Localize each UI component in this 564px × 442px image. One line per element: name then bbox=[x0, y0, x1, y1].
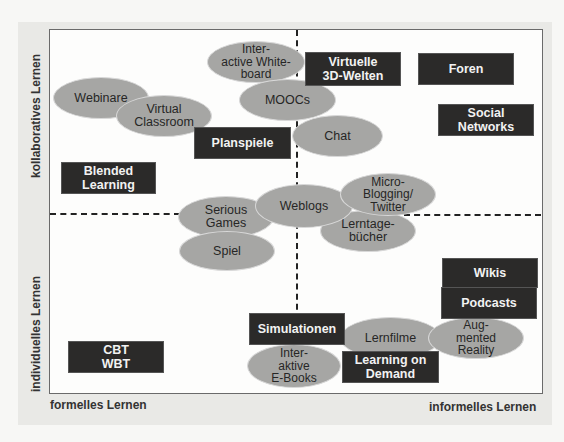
ellipse-chat: Chat bbox=[292, 115, 383, 157]
box-simulationen: Simulationen bbox=[249, 313, 345, 345]
box-blended-learning: Blended Learning bbox=[61, 162, 156, 194]
horizontal-divider-right bbox=[404, 214, 541, 216]
horizontal-divider-left bbox=[50, 213, 180, 215]
box-cbt-wbt: CBT WBT bbox=[68, 341, 164, 373]
box-foren: Foren bbox=[418, 53, 514, 85]
ellipse-augmented-reality: Aug- mented Reality bbox=[428, 317, 524, 359]
box-social-networks: Social Networks bbox=[438, 104, 534, 136]
ellipse-interaktive-ebooks: Inter- aktive E-Books bbox=[247, 344, 341, 388]
box-virtuelle-3d-welten: Virtuelle 3D-Welten bbox=[305, 52, 401, 86]
ellipse-micro-blogging-twitter: Micro- Blogging/ Twitter bbox=[340, 173, 436, 216]
box-learning-on-demand: Learning on Demand bbox=[342, 351, 439, 383]
y-axis-label-top: kollaboratives Lernen bbox=[29, 54, 43, 178]
box-planspiele: Planspiele bbox=[194, 127, 291, 159]
ellipse-weblogs: Weblogs bbox=[255, 184, 353, 228]
y-axis-label-bottom: individuelles Lernen bbox=[29, 276, 43, 392]
ellipse-spiel: Spiel bbox=[179, 231, 275, 271]
x-axis-label-right: informelles Lernen bbox=[429, 400, 536, 414]
x-axis-label-left: formelles Lernen bbox=[50, 398, 147, 412]
box-wikis: Wikis bbox=[442, 258, 538, 288]
ellipse-interactive-whiteboard: Inter- active White- board bbox=[207, 41, 305, 83]
box-podcasts: Podcasts bbox=[441, 287, 537, 319]
